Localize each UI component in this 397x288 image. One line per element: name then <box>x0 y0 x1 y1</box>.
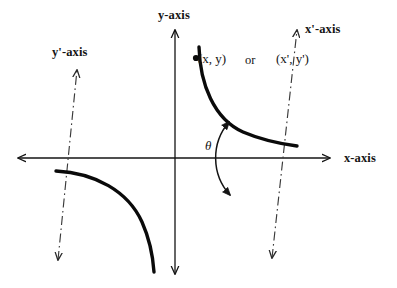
angle-theta-label: θ <box>205 139 211 152</box>
hyperbola-curves <box>56 47 297 272</box>
or-connector-label: or <box>245 54 255 67</box>
y-prime-axis-label: y'-axis <box>52 46 87 59</box>
figure-canvas: y-axis x-axis x'-axis y'-axis (x, y) or … <box>0 0 397 288</box>
y-axis-label: y-axis <box>158 9 190 22</box>
rotation-of-axes-diagram <box>0 0 397 288</box>
y-prime-axis-line <box>58 70 77 260</box>
x-prime-axis-label: x'-axis <box>305 23 340 36</box>
rotated-axes <box>58 30 297 260</box>
hyperbola-branch-lower-left <box>56 171 154 272</box>
x-axis-label: x-axis <box>344 152 376 165</box>
point-x-prime-y-prime-label: (x', y') <box>276 52 309 65</box>
point-xy-label: (x, y) <box>198 52 226 65</box>
